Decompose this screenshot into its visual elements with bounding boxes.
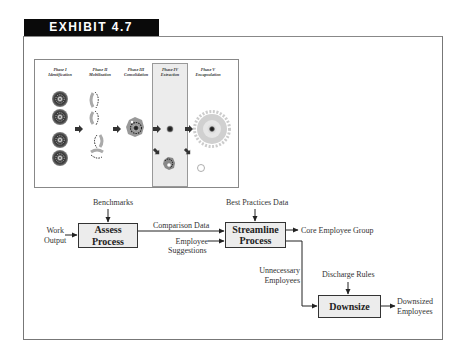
phase-i-cells-icon: [52, 91, 68, 166]
assess-process-box: Assess Process: [78, 223, 138, 248]
comparison-data-label: Comparison Data: [153, 221, 209, 231]
work-output-line1: Work: [44, 226, 64, 236]
assess-line1: Assess: [79, 224, 137, 236]
phase-ii-fragments-icon: [91, 92, 103, 158]
phase-iii-cluster-icon: [126, 117, 144, 137]
unnecessary-line1: Unnecessary: [255, 266, 300, 276]
best-practices-label: Best Practices Data: [226, 198, 288, 208]
discharge-rules-label: Discharge Rules: [322, 270, 375, 280]
employee-suggestions-label-line2: Suggestions: [168, 246, 207, 256]
work-output-line2: Output: [44, 236, 64, 246]
diagram-graphics: [0, 0, 465, 361]
work-output-label: Work Output: [44, 226, 64, 245]
empty-cell-icon: [198, 165, 205, 172]
unnecessary-employees-label: Unnecessary Employees: [255, 266, 300, 285]
unnecessary-line2: Employees: [255, 276, 300, 286]
downsize-label: Downsize: [319, 301, 380, 313]
downsized-line2: Employees: [397, 307, 433, 317]
phase-v-gear-icon: [195, 112, 230, 147]
core-employee-group-label: Core Employee Group: [301, 226, 373, 236]
assess-line2: Process: [79, 236, 137, 248]
benchmarks-label: Benchmarks: [93, 198, 133, 208]
downsized-employees-label: Downsized Employees: [397, 297, 433, 316]
streamline-line1: Streamline: [226, 224, 285, 236]
streamline-line2: Process: [226, 235, 285, 247]
phase-iv-extraction-icon: [163, 126, 175, 171]
downsized-line1: Downsized: [397, 297, 433, 307]
downsize-box: Downsize: [318, 295, 381, 318]
streamline-process-box: Streamline Process: [225, 222, 286, 248]
